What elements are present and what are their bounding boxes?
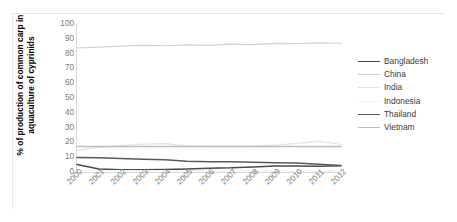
x-axis-tick-mark <box>143 173 144 176</box>
x-axis-tick-label: 2000 <box>65 167 84 186</box>
legend-swatch-icon <box>358 127 380 128</box>
legend-swatch-icon <box>358 101 380 102</box>
x-axis-tick-label: 2011 <box>307 168 326 187</box>
x-axis-tick-mark <box>231 173 232 176</box>
x-axis-tick-label: 2002 <box>109 167 128 186</box>
legend-item-label: Indonesia <box>384 97 420 106</box>
x-axis-tick-mark <box>341 173 342 176</box>
x-axis-tick-label: 2005 <box>175 167 194 186</box>
x-axis-tick-label: 2001 <box>87 167 106 186</box>
legend-item-india[interactable]: India <box>358 81 454 94</box>
legend-item-indonesia[interactable]: Indonesia <box>358 95 454 108</box>
legend-item-bangladesh[interactable]: Bangladesh <box>358 55 454 68</box>
x-axis-tick-label: 2003 <box>131 167 150 186</box>
legend-item-thailand[interactable]: Thailand <box>358 108 454 121</box>
legend-swatch-icon <box>358 87 380 88</box>
chart-legend: BangladeshChinaIndiaIndonesiaThailandVie… <box>358 55 454 134</box>
x-axis-tick-label: 2008 <box>241 167 260 186</box>
x-axis-tick-mark <box>165 173 166 176</box>
x-axis-tick-mark <box>187 173 188 176</box>
legend-swatch-icon <box>358 61 380 62</box>
x-axis-tick-label: 2004 <box>153 167 172 186</box>
legend-swatch-icon <box>358 114 380 115</box>
x-axis-tick-label: 2009 <box>263 167 282 186</box>
x-axis-tick-mark <box>319 173 320 176</box>
x-axis-tick-mark <box>209 173 210 176</box>
x-axis-tick-label: 2007 <box>219 167 238 186</box>
legend-swatch-icon <box>358 74 380 75</box>
x-axis-tick-label: 2012 <box>329 167 348 186</box>
x-axis-tick-mark <box>121 173 122 176</box>
x-axis-tick-mark <box>275 173 276 176</box>
x-axis-tick-mark <box>253 173 254 176</box>
legend-item-china[interactable]: China <box>358 68 454 81</box>
x-axis-tick-mark <box>297 173 298 176</box>
x-axis-tick-mark <box>99 173 100 176</box>
line-chart: % of production of common carp in aquacu… <box>0 0 457 222</box>
legend-item-vietnam[interactable]: Vietnam <box>358 121 454 134</box>
x-axis-tick-mark <box>77 173 78 176</box>
legend-item-label: Vietnam <box>384 123 415 132</box>
legend-item-label: China <box>384 70 406 79</box>
legend-item-label: India <box>384 83 402 92</box>
legend-item-label: Thailand <box>384 110 416 119</box>
x-axis-tick-label: 2010 <box>285 167 304 186</box>
x-axis-tick-label: 2006 <box>197 167 216 186</box>
legend-item-label: Bangladesh <box>384 57 428 66</box>
